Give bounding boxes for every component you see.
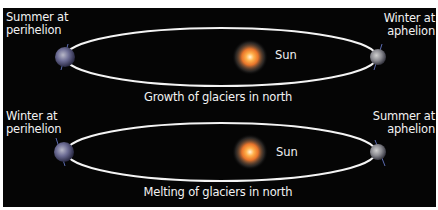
- top-sun-icon: [232, 39, 268, 75]
- top-earth-aphelion-icon: [370, 44, 386, 70]
- top-orbit-group: [55, 28, 386, 86]
- top-right-label: Winter at aphelion: [384, 12, 435, 38]
- bottom-left-label-line2: perihelion: [6, 123, 61, 136]
- bottom-sun-icon: [232, 134, 268, 170]
- bottom-sun-label: Sun: [276, 146, 298, 159]
- bottom-caption: Melting of glaciers in north: [98, 186, 338, 199]
- bottom-left-label: Winter at perihelion: [6, 110, 61, 136]
- top-sun-label: Sun: [275, 49, 297, 62]
- bottom-orbit-ellipse: [66, 123, 376, 181]
- bottom-right-label-line2: aphelion: [373, 123, 435, 136]
- bottom-earth-aphelion-icon: [370, 140, 386, 166]
- top-left-label: Summer at perihelion: [6, 11, 68, 37]
- bottom-right-label: Summer at aphelion: [373, 110, 435, 136]
- bottom-earth-perihelion-icon: [54, 138, 74, 166]
- top-left-label-line2: perihelion: [6, 24, 68, 37]
- bottom-orbit-group: [54, 123, 386, 181]
- top-orbit-ellipse: [65, 28, 377, 86]
- top-right-label-line2: aphelion: [384, 25, 435, 38]
- top-caption: Growth of glaciers in north: [98, 91, 338, 104]
